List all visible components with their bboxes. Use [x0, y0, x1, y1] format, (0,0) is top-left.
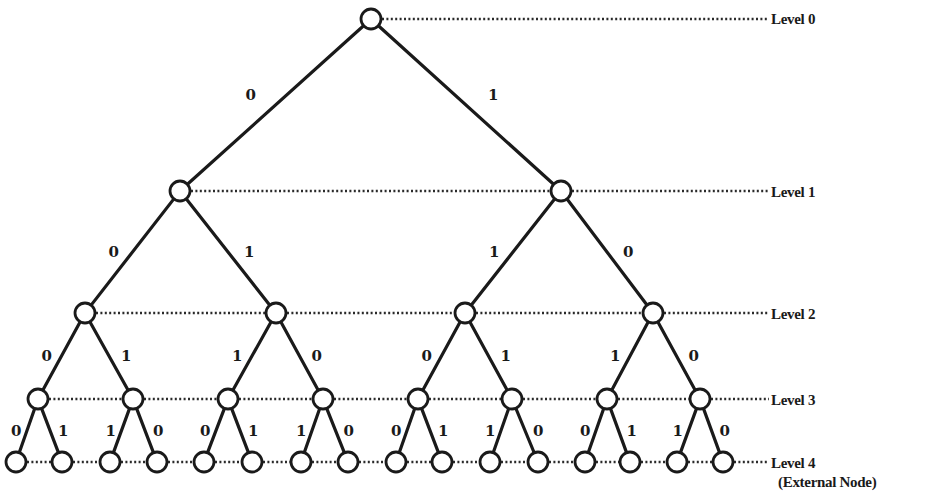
edge-bit-label: 1 [244, 243, 254, 261]
tree-edge [327, 408, 345, 452]
external-node [194, 452, 214, 472]
edge-bit-label: 0 [246, 86, 256, 104]
tree-edge [19, 408, 34, 452]
edge-labels: 010110011001100110011001100110 [11, 86, 730, 440]
edge-bit-label: 0 [580, 422, 590, 440]
tree-edge [42, 408, 59, 452]
tree-edge [567, 199, 647, 305]
tree-edge [186, 199, 270, 305]
external-node [713, 452, 733, 472]
edge-bit-label: 0 [344, 422, 354, 440]
tree-edge [471, 199, 555, 305]
edge-bit-label: 1 [438, 422, 448, 440]
external-node [100, 452, 120, 472]
external-node [147, 452, 167, 472]
external-node [291, 452, 311, 472]
internal-node [28, 389, 48, 409]
tree-edge [91, 199, 174, 305]
external-node [242, 452, 262, 472]
internal-node [690, 389, 710, 409]
tree-edge [399, 408, 414, 452]
external-node [52, 452, 72, 472]
edges [19, 26, 719, 453]
external-node [528, 452, 548, 472]
edge-bit-label: 0 [312, 347, 322, 365]
edge-bit-label: 1 [121, 347, 131, 365]
external-node-note: (External Node) [778, 474, 877, 491]
tree-canvas: 010110011001100110011001100110 Level 0 L… [0, 0, 927, 495]
edge-bit-label: 1 [106, 422, 116, 440]
tree-edge [304, 408, 319, 452]
level-label-0: Level 0 [771, 11, 815, 27]
edge-bit-label: 0 [533, 422, 543, 440]
level-label-1: Level 1 [771, 184, 815, 200]
internal-node [75, 303, 95, 323]
external-node [6, 452, 26, 472]
edge-bit-label: 0 [109, 243, 119, 261]
external-node [386, 452, 406, 472]
edge-bit-label: 0 [422, 347, 432, 365]
tree-edge [137, 408, 154, 452]
external-node [432, 452, 452, 472]
edge-bit-label: 1 [673, 422, 683, 440]
edge-bit-label: 0 [200, 422, 210, 440]
internal-node [408, 389, 428, 409]
internal-node [313, 389, 333, 409]
internal-node [455, 303, 475, 323]
tree-edge [187, 26, 363, 185]
edge-bit-label: 1 [610, 347, 620, 365]
edge-bit-label: 1 [485, 422, 495, 440]
binary-tree-diagram: 010110011001100110011001100110 Level 0 L… [0, 0, 927, 495]
edge-bit-label: 1 [627, 422, 637, 440]
external-node [667, 452, 687, 472]
internal-node [551, 181, 571, 201]
external-node [620, 452, 640, 472]
edge-bit-label: 0 [720, 422, 730, 440]
tree-edge [516, 408, 534, 453]
level-labels: Level 0 Level 1 Level 2 Level 3 Level 4 … [771, 11, 877, 491]
internal-node [170, 181, 190, 201]
tree-edge [378, 26, 553, 185]
edge-bit-label: 1 [488, 86, 498, 104]
internal-node [218, 389, 238, 409]
tree-edge [588, 408, 603, 452]
level-label-2: Level 2 [771, 306, 815, 322]
edge-bit-label: 1 [489, 243, 499, 261]
level-label-4: Level 4 [771, 455, 816, 471]
edge-bit-label: 0 [391, 422, 401, 440]
tree-edge [703, 408, 719, 452]
edge-bit-label: 1 [232, 347, 242, 365]
edge-bit-label: 1 [58, 422, 68, 440]
edge-bit-label: 0 [11, 422, 21, 440]
nodes [6, 9, 733, 472]
internal-node [643, 303, 663, 323]
tree-edge [232, 408, 249, 452]
tree-edge [610, 408, 626, 452]
external-node [338, 452, 358, 472]
edge-bit-label: 0 [623, 243, 633, 261]
external-node [575, 452, 595, 472]
internal-node [597, 389, 617, 409]
internal-node [123, 389, 143, 409]
external-node [480, 452, 500, 472]
tree-edge [493, 408, 508, 452]
edge-bit-label: 0 [689, 347, 699, 365]
edge-bit-label: 1 [296, 422, 306, 440]
edge-bit-label: 1 [501, 347, 511, 365]
internal-node [502, 389, 522, 409]
tree-edge [422, 408, 439, 452]
level-label-3: Level 3 [771, 392, 815, 408]
internal-node [361, 9, 381, 29]
edge-bit-label: 1 [248, 422, 258, 440]
internal-node [266, 303, 286, 323]
edge-bit-label: 0 [42, 347, 52, 365]
edge-bit-label: 0 [153, 422, 163, 440]
